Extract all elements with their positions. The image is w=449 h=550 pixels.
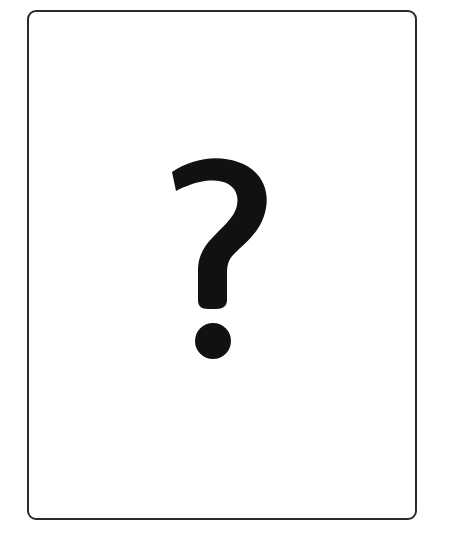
symbol-text: ? xyxy=(29,12,30,13)
question-mark-icon xyxy=(160,150,280,370)
